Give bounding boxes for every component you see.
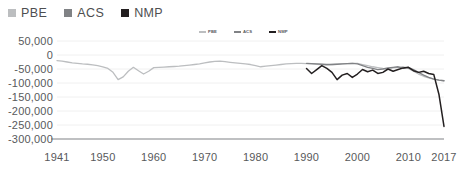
- x-axis-tick-label: 1990: [294, 152, 319, 163]
- x-axis-tick-label: 1980: [243, 152, 268, 163]
- x-axis-tick-label: 2010: [396, 152, 421, 163]
- x-axis-tick-label: 2000: [345, 152, 370, 163]
- x-axis-tick-label: 1960: [141, 152, 166, 163]
- x-axis-tick-label: 1950: [90, 152, 115, 163]
- x-axis-tick-label: 1941: [44, 152, 69, 163]
- x-axis-tick-label: 1970: [192, 152, 217, 163]
- x-axis-tick-label: 2017: [431, 152, 456, 163]
